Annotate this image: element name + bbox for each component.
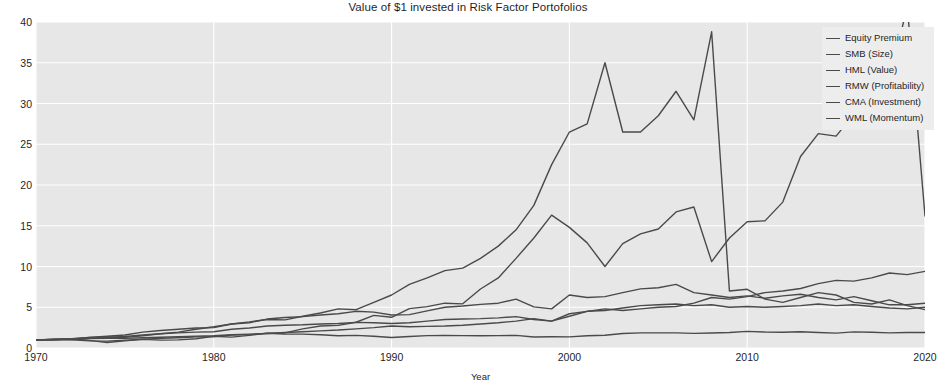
legend-item-label: SMB (Size) bbox=[845, 49, 893, 59]
y-axis-tick-labels: 0510152025303540 bbox=[0, 22, 32, 348]
legend-line-icon bbox=[826, 38, 840, 39]
x-axis-tick-label: 2010 bbox=[736, 352, 759, 363]
y-axis-tick-label: 10 bbox=[4, 261, 32, 272]
legend-line-icon bbox=[826, 54, 840, 55]
x-axis-tick-label: 1970 bbox=[24, 352, 47, 363]
legend-item[interactable]: CMA (Investment) bbox=[824, 94, 932, 110]
y-axis-tick-label: 25 bbox=[4, 139, 32, 150]
y-axis-tick-label: 30 bbox=[4, 98, 32, 109]
legend-item[interactable]: RMW (Profitability) bbox=[824, 78, 932, 94]
plot-area bbox=[36, 22, 925, 348]
legend-item-label: WML (Momentum) bbox=[845, 113, 923, 123]
y-axis-tick-label: 20 bbox=[4, 180, 32, 191]
x-axis-tick-label: 1980 bbox=[202, 352, 225, 363]
y-axis-tick-label: 15 bbox=[4, 221, 32, 232]
legend-item-label: RMW (Profitability) bbox=[845, 81, 924, 91]
x-axis-label: Year bbox=[36, 371, 925, 382]
y-axis-tick-label: 5 bbox=[4, 302, 32, 313]
legend-item[interactable]: SMB (Size) bbox=[824, 46, 932, 62]
x-axis-tick-label: 1990 bbox=[380, 352, 403, 363]
legend-item[interactable]: Equity Premium bbox=[824, 30, 932, 46]
legend-line-icon bbox=[826, 102, 840, 103]
chart-legend: Equity PremiumSMB (Size)HML (Value)RMW (… bbox=[822, 27, 934, 130]
legend-line-icon bbox=[826, 118, 840, 119]
legend-item-label: CMA (Investment) bbox=[845, 97, 921, 107]
legend-line-icon bbox=[826, 86, 840, 87]
legend-line-icon bbox=[826, 70, 840, 71]
legend-item-label: HML (Value) bbox=[845, 65, 897, 75]
y-axis-tick-label: 35 bbox=[4, 58, 32, 69]
x-axis-tick-labels: 197019801990200020102020 bbox=[36, 352, 925, 368]
legend-item[interactable]: WML (Momentum) bbox=[824, 110, 932, 126]
x-axis-tick-label: 2000 bbox=[558, 352, 581, 363]
series-line bbox=[36, 32, 925, 340]
legend-item-label: Equity Premium bbox=[845, 33, 912, 43]
y-axis-tick-label: 40 bbox=[4, 17, 32, 28]
x-axis-tick-label: 2020 bbox=[913, 352, 936, 363]
plot-lines bbox=[36, 22, 925, 348]
chart-title: Value of $1 invested in Risk Factor Port… bbox=[0, 1, 936, 13]
series-line bbox=[36, 304, 925, 340]
legend-item[interactable]: HML (Value) bbox=[824, 62, 932, 78]
